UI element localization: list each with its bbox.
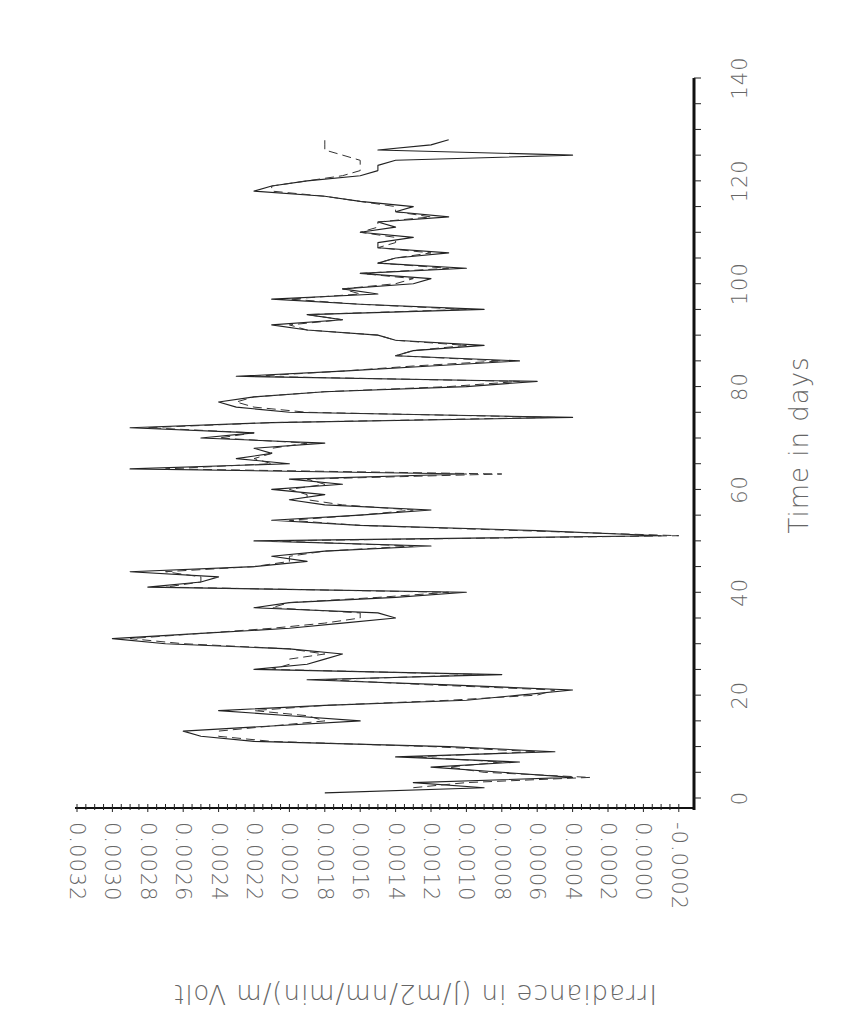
irradiance-tick-label: 0.0032 xyxy=(65,822,89,901)
time-tick-label: 100 xyxy=(728,262,752,305)
irradiance-tick-label: 0.0016 xyxy=(348,822,372,901)
irradiance-tick-label: 0.0014 xyxy=(384,822,408,901)
irradiance-tick-label: 0.0022 xyxy=(242,822,266,901)
irradiance-tick-label: 0.0012 xyxy=(419,822,443,901)
irradiance-tick-label: 0.0026 xyxy=(171,822,195,901)
irradiance-tick-label: 0.0030 xyxy=(100,822,124,901)
time-tick-label: 120 xyxy=(728,159,752,202)
irradiance-tick-label: 0.0024 xyxy=(207,822,231,901)
irradiance-tick-label: 0.0028 xyxy=(136,822,160,901)
time-axis-title: Time in days xyxy=(784,356,814,533)
time-tick-label: 80 xyxy=(728,372,752,401)
irradiance-tick-label: 0.0006 xyxy=(525,822,549,901)
rotated-line-chart: 020406080100120140 Time in days 0.00320.… xyxy=(0,0,858,1031)
irradiance-tick-label: 0.0018 xyxy=(313,822,337,901)
time-tick-label: 20 xyxy=(728,681,752,710)
irradiance-tick-label: 0.0002 xyxy=(596,822,620,901)
time-tick-label: 0 xyxy=(728,791,752,805)
time-axis-tick-labels: 020406080100120140 xyxy=(728,56,752,805)
irradiance-tick-label: 0.0020 xyxy=(277,822,301,901)
time-tick-label: 40 xyxy=(728,578,752,607)
irradiance-axis-tick-labels: 0.00320.00300.00280.00260.00240.00220.00… xyxy=(65,822,691,910)
time-tick-label: 140 xyxy=(728,56,752,99)
time-axis: 020406080100120140 Time in days xyxy=(694,56,814,810)
plot-area xyxy=(112,140,678,793)
irradiance-tick-label: -0.0002 xyxy=(667,822,691,910)
irradiance-axis: 0.00320.00300.00280.00260.00240.00220.00… xyxy=(65,804,694,1009)
irradiance-tick-label: 0.0004 xyxy=(561,822,585,901)
irradiance-axis-title: Irradiance in (J/m2/nm/min)/m Volt xyxy=(173,979,657,1009)
time-tick-label: 60 xyxy=(728,475,752,504)
irradiance-tick-label: 0.0008 xyxy=(490,822,514,901)
irradiance-tick-label: 0.0010 xyxy=(454,822,478,901)
irradiance-tick-label: 0.0000 xyxy=(631,822,655,901)
series-measured-solid-line xyxy=(112,140,661,793)
